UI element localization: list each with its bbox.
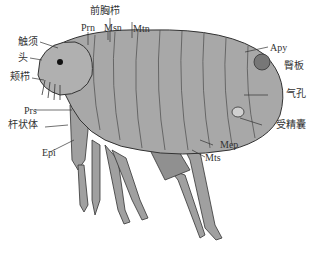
spermatheca [232,107,244,117]
label-epi: Epi [42,148,56,158]
label-prn: Prn [81,23,95,33]
label-antenna: 触须 [18,37,38,47]
flea-head [38,42,92,95]
label-mep: Mep [220,140,238,150]
label-rod-body: 杆状体 [8,120,38,130]
label-pronotal-comb: 前胸栉 [90,6,120,16]
label-genal-comb: 颊栉 [10,72,30,82]
label-sensilium: 臀板 [284,61,304,71]
label-spermatheca: 受精囊 [276,120,306,130]
label-apy: Apy [270,43,287,53]
label-mts: Mts [205,153,221,163]
eye [57,59,63,65]
label-mtn: Mtn [133,24,150,34]
flea-illustration [0,0,315,263]
label-prs: Prs [24,106,37,116]
sensilium [254,54,270,70]
flea-body [58,30,283,154]
label-spiracle: 气孔 [286,89,306,99]
label-msn: Msn [104,23,122,33]
label-head: 头 [18,53,28,63]
flea-diagram: 前胸栉 Prn Msn Mtn 触须 头 颊栉 Prs 杆状体 Epi Apy … [0,0,315,263]
